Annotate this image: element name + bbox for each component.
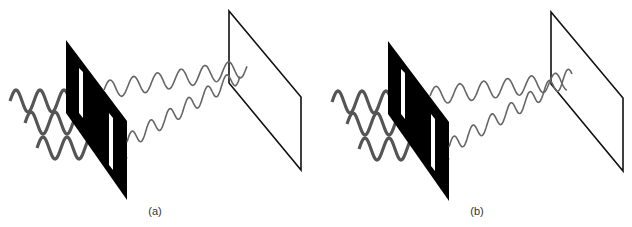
diffracted-wave-upper xyxy=(104,62,247,96)
panel-a-label: (a) xyxy=(148,205,161,217)
slit-barrier xyxy=(388,41,449,201)
panel-b xyxy=(332,12,623,201)
panel-a xyxy=(10,11,301,200)
slit-upper xyxy=(79,68,83,118)
slit-upper xyxy=(401,69,405,119)
detection-screen xyxy=(551,12,623,171)
detection-screen xyxy=(229,11,301,170)
slit-barrier xyxy=(66,40,127,200)
slit-lower xyxy=(431,114,435,171)
diffracted-wave-lower xyxy=(127,75,240,142)
slit-lower xyxy=(109,113,113,170)
panel-b-label: (b) xyxy=(470,205,483,217)
diagram-canvas: (a) (b) xyxy=(0,0,632,227)
figure: (a) (b) xyxy=(0,0,632,227)
diffracted-wave-upper xyxy=(430,73,567,103)
